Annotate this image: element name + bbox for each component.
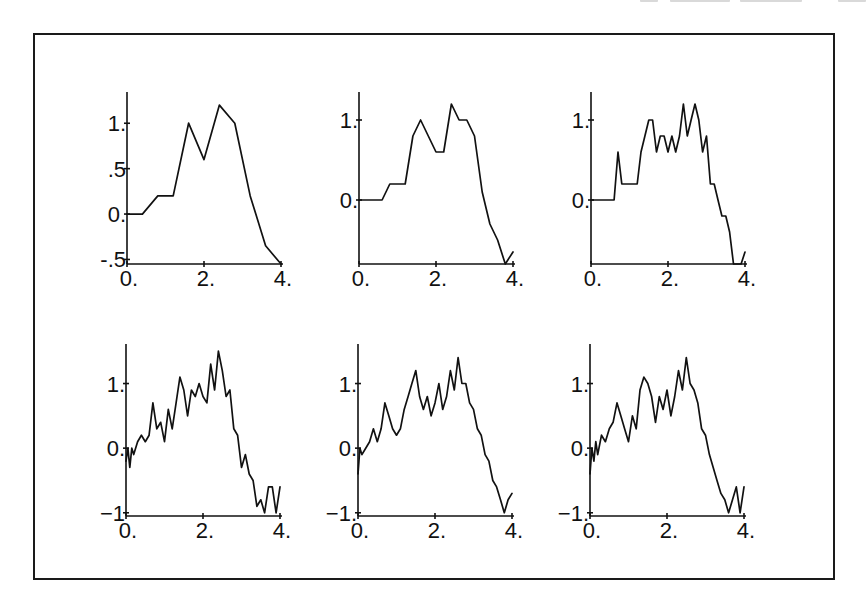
x-tick-label: 4. <box>506 266 524 291</box>
plot-panel-row2-col1: 0.2.4.1.0.−1 <box>100 344 291 543</box>
y-tick-label: 1. <box>340 108 358 133</box>
data-line <box>358 358 512 513</box>
x-tick-label: 0. <box>352 266 370 291</box>
x-tick-label: 2. <box>660 518 678 543</box>
data-line <box>590 358 744 513</box>
data-line <box>359 104 513 264</box>
plot-panel-row1-col3: 0.2.4.1.0. <box>572 92 757 291</box>
x-tick-label: 4. <box>737 518 755 543</box>
y-tick-label: 1. <box>572 108 590 133</box>
y-tick-label: 0. <box>340 188 358 213</box>
y-tick-label: -.5 <box>100 247 126 272</box>
y-tick-label: −1. <box>326 501 357 526</box>
plot-grid: 0.2.4.1..50.-.50.2.4.1.0.0.2.4.1.0.0.2.4… <box>0 0 868 605</box>
x-tick-label: 2. <box>661 266 679 291</box>
plot-panel-row1-col2: 0.2.4.1.0. <box>340 92 525 291</box>
plot-panel-row2-col2: 0.2.4.1.0.−1. <box>326 344 523 543</box>
y-tick-label: 1. <box>108 111 126 136</box>
y-tick-label: 1. <box>571 372 589 397</box>
y-tick-label: −1. <box>558 501 589 526</box>
y-tick-label: 0. <box>572 188 590 213</box>
plot-panel-row1-col1: 0.2.4.1..50.-.5 <box>100 92 292 291</box>
x-tick-label: 2. <box>428 518 446 543</box>
x-tick-label: 4. <box>273 518 291 543</box>
y-tick-label: −1 <box>100 501 125 526</box>
data-line <box>127 105 281 264</box>
x-tick-label: 2. <box>197 266 215 291</box>
x-tick-label: 2. <box>196 518 214 543</box>
y-tick-label: 0. <box>339 436 357 461</box>
x-tick-label: 2. <box>429 266 447 291</box>
x-tick-label: 0. <box>584 266 602 291</box>
y-tick-label: 0. <box>107 436 125 461</box>
x-tick-label: 4. <box>274 266 292 291</box>
plot-panel-row2-col3: 0.2.4.1.0.−1. <box>558 344 755 543</box>
data-line <box>591 104 745 264</box>
y-tick-label: 1. <box>339 372 357 397</box>
x-tick-label: 4. <box>505 518 523 543</box>
data-line <box>126 351 280 513</box>
y-tick-label: .5 <box>108 157 126 182</box>
x-tick-label: 4. <box>738 266 756 291</box>
y-tick-label: 0. <box>108 202 126 227</box>
y-tick-label: 1. <box>107 372 125 397</box>
y-tick-label: 0. <box>571 436 589 461</box>
